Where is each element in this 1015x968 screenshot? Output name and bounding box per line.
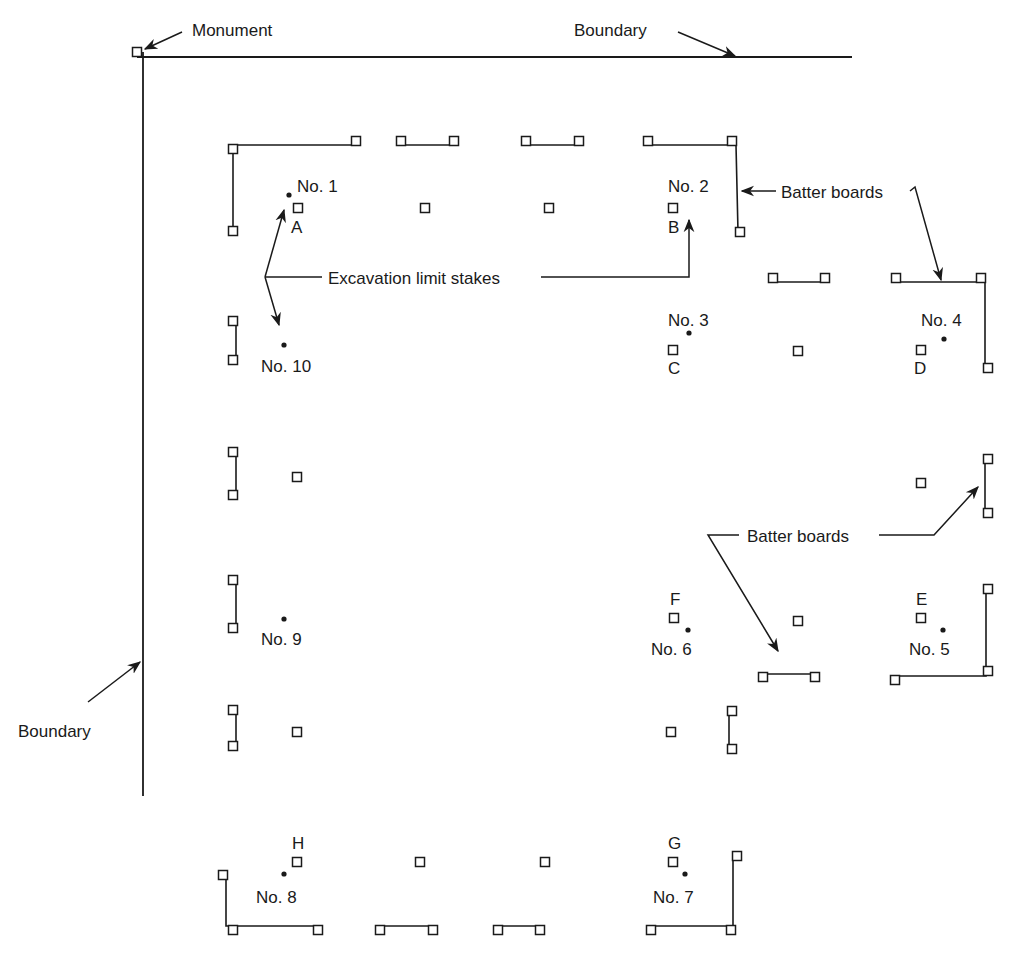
batter-board-stake-icon <box>229 356 238 365</box>
batter-board-stake-icon <box>736 228 745 237</box>
batter-board-bb-e4b <box>984 455 993 518</box>
corner-label: No. 1 <box>297 177 338 196</box>
batter-board-stake-icon <box>811 673 820 682</box>
offset-stake-letter: D <box>914 359 926 378</box>
batter-board-stake-icon <box>522 137 531 146</box>
monument-arrow-icon <box>145 32 182 49</box>
corner-point-icon <box>686 330 691 335</box>
batter-board-stake-icon <box>429 926 438 935</box>
excavation-limit-stakes-label: Excavation limit stakes <box>328 269 500 288</box>
batter-board-stake-icon <box>352 137 361 146</box>
offset-stake-icon <box>917 346 926 355</box>
batter-board-bb-s1 <box>376 926 438 935</box>
boundary-top-arrow-icon <box>678 32 735 56</box>
batter-board-stake-icon <box>229 926 238 935</box>
line-stake-icon <box>541 858 550 867</box>
offset-stake-b: B <box>668 204 679 238</box>
batter-board-stake-icon <box>450 137 459 146</box>
offset-stake-letter: G <box>668 834 681 853</box>
batter-board-stake-icon <box>984 455 993 464</box>
batter-board-bb-n2 <box>522 137 584 146</box>
batter-board-bb-w10 <box>229 317 238 365</box>
line-stake-icon <box>421 204 430 213</box>
line-stake-icon <box>545 204 554 213</box>
batter-board-stake-icon <box>977 274 986 283</box>
batter-board-stake-icon <box>229 448 238 457</box>
offset-stake-c: C <box>668 346 680 379</box>
corner-point-icon <box>941 336 946 341</box>
batter-board-stake-icon <box>769 274 778 283</box>
batter-board-stake-icon <box>984 364 993 373</box>
corner-point-icon <box>682 871 687 876</box>
corner-point-icon <box>281 871 286 876</box>
offset-stake-letter: H <box>292 834 304 853</box>
line-stake-icon <box>293 473 302 482</box>
boundary-left-arrow-icon <box>88 662 140 702</box>
excavation-arrow-up-left-icon <box>265 210 284 277</box>
offset-stake-g: G <box>668 834 681 867</box>
offset-stake-letter: E <box>916 590 927 609</box>
batter-board-stake-icon <box>229 576 238 585</box>
corner-label: No. 10 <box>261 357 311 376</box>
corner-label: No. 6 <box>651 640 692 659</box>
batter-board-stake-icon <box>575 137 584 146</box>
corner-3: No. 3 <box>668 311 709 336</box>
line-stake-icon <box>667 728 676 737</box>
offset-stake-letter: F <box>670 590 680 609</box>
batter-board-stake-icon <box>728 137 737 146</box>
batter-boards-top-leader <box>910 187 941 280</box>
batter-boards-mid-left-arrow-icon <box>708 535 778 651</box>
corner-point-icon <box>281 342 286 347</box>
offset-stake-icon <box>294 204 303 213</box>
batter-board-stake-icon <box>229 145 238 154</box>
batter-board-bb-e6 <box>728 707 737 754</box>
corner-4: No. 4 <box>921 311 962 342</box>
batter-board-stake-icon <box>376 926 385 935</box>
batter-board-stake-icon <box>229 742 238 751</box>
offset-stake-e: E <box>916 590 927 623</box>
line-stake-icon <box>917 479 926 488</box>
offset-stake-letter: A <box>291 218 303 237</box>
line-stake-icon <box>794 617 803 626</box>
batter-board-bb-s6 <box>759 673 820 682</box>
batter-board-bb-se5 <box>891 585 993 685</box>
corner-label: No. 7 <box>653 888 694 907</box>
batter-board-bb-w8a <box>229 706 238 751</box>
batter-board-stake-icon <box>891 676 900 685</box>
batter-board-stake-icon <box>314 926 323 935</box>
batter-board-stake-icon <box>728 707 737 716</box>
batter-board-stake-icon <box>647 926 656 935</box>
offset-stake-icon <box>669 204 678 213</box>
batter-boards <box>219 137 993 935</box>
corner-point-icon <box>685 627 690 632</box>
batter-board-stake-icon <box>229 227 238 236</box>
corner-point-icon <box>940 627 945 632</box>
offset-stake-letter: B <box>668 218 679 237</box>
corner-label: No. 2 <box>668 177 709 196</box>
batter-board-stake-icon <box>219 871 228 880</box>
line-stake-icon <box>293 728 302 737</box>
offset-stake-a: A <box>291 204 303 238</box>
line-stake-icon <box>794 347 803 356</box>
corner-point-icon <box>286 192 291 197</box>
offset-stake-icon <box>917 614 926 623</box>
corner-6: No. 6 <box>651 627 692 659</box>
offset-stake-icon <box>670 614 679 623</box>
batter-board-stake-icon <box>727 926 736 935</box>
batter-board-stake-icon <box>733 852 742 861</box>
batter-board-stake-icon <box>759 673 768 682</box>
batter-board-bb-e1 <box>769 274 830 283</box>
excavation-right-leader <box>541 220 689 277</box>
batter-board-stake-icon <box>494 926 503 935</box>
corner-7: No. 7 <box>653 871 694 907</box>
excavation-arrow-down-left-icon <box>265 277 279 325</box>
corner-5: No. 5 <box>909 627 950 659</box>
batter-boards-mid-label: Batter boards <box>747 527 849 546</box>
monument-label: Monument <box>192 21 273 40</box>
batter-board-line <box>233 145 356 149</box>
batter-board-stake-icon <box>229 317 238 326</box>
batter-board-stake-icon <box>984 585 993 594</box>
batter-board-line <box>894 589 986 676</box>
offset-stake-f: F <box>670 590 681 623</box>
batter-board-stake-icon <box>229 624 238 633</box>
